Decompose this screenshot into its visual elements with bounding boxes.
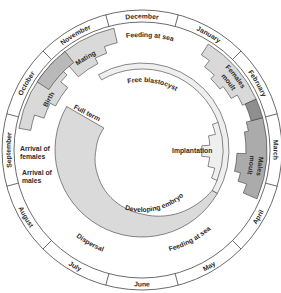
activity-blocks <box>19 28 267 199</box>
label-free-blastocyst: Free blastocyst <box>127 76 180 92</box>
month-label-june: June <box>134 280 150 287</box>
label-developing-embryo: Developing embryo <box>124 191 184 213</box>
month-divider <box>233 51 241 59</box>
seal-annual-cycle-figure: December January February March Septembe… <box>0 0 281 293</box>
month-ring-inner-border <box>14 22 270 278</box>
label-dispersal: Dispersal <box>75 232 105 253</box>
month-label-july: July <box>67 260 82 274</box>
label-arrival-of-females-line1: Arrival of <box>20 145 51 152</box>
month-divider <box>233 241 241 249</box>
label-arrival-of-females-line2: females <box>20 153 46 160</box>
month-divider <box>175 15 178 27</box>
month-label-march: March <box>272 140 279 161</box>
month-label-may: May <box>202 260 218 273</box>
developing-embryo-band <box>55 107 217 237</box>
month-divider <box>43 51 51 59</box>
month-divider <box>106 15 109 27</box>
month-divider <box>266 183 278 186</box>
month-divider <box>175 274 178 286</box>
month-label-january: January <box>196 25 223 45</box>
annual-cycle-diagram: December January February March Septembe… <box>0 0 281 293</box>
label-arrival-of-males-line1: Arrival of <box>22 169 53 176</box>
month-label-april: April <box>251 209 265 226</box>
month-divider <box>7 183 19 186</box>
label-arrival-of-males-line2: males <box>22 177 41 184</box>
label-implantation: Implantation <box>172 147 212 155</box>
month-divider <box>266 114 278 117</box>
month-divider <box>106 274 109 286</box>
month-divider <box>7 114 19 117</box>
label-feeding-at-sea-winter: Feeding at sea <box>126 31 175 42</box>
month-label-september: September <box>4 131 12 168</box>
month-label-december: December <box>125 12 159 20</box>
month-divider <box>43 241 51 249</box>
